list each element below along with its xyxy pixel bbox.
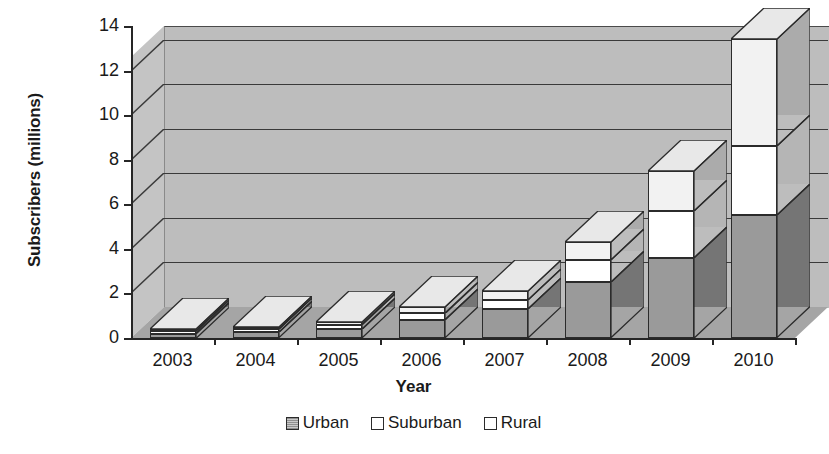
x-axis-tick-label: 2006 [377, 350, 467, 370]
bar-segment[interactable] [233, 329, 279, 332]
legend-item[interactable]: Suburban [371, 413, 462, 433]
y-axis-line [131, 26, 133, 339]
bar-segment[interactable] [648, 258, 694, 338]
bar-top-face-outline [648, 140, 727, 173]
x-axis-tick [629, 338, 631, 345]
x-axis-tick-label: 2009 [626, 350, 716, 370]
legend-label: Urban [303, 413, 349, 433]
x-axis-tick-label: 2005 [294, 350, 384, 370]
chart-legend: UrbanSuburbanRural [0, 413, 827, 433]
gridline [164, 129, 828, 130]
x-axis-tick [380, 338, 382, 345]
y-axis-tick [124, 26, 131, 28]
gridline [164, 173, 828, 174]
bar-segment[interactable] [316, 329, 362, 338]
bar-top-face-outline [731, 8, 810, 41]
legend-item[interactable]: Rural [484, 413, 542, 433]
bar-segment[interactable] [648, 211, 694, 258]
y-axis-tick-label: 8 [19, 150, 119, 168]
bar-segment[interactable] [731, 215, 777, 338]
y-axis-tick-label: 10 [19, 105, 119, 123]
y-axis-tick-label: 0 [19, 328, 119, 346]
bar-segment[interactable] [731, 39, 777, 146]
y-axis-tick [124, 204, 131, 206]
x-axis-tick [795, 338, 797, 345]
bar-segment[interactable] [648, 171, 694, 211]
bar-top-face-outline [399, 276, 478, 309]
bar-segment[interactable] [565, 282, 611, 338]
legend-item[interactable]: Urban [286, 413, 349, 433]
bar-segment[interactable] [316, 325, 362, 329]
bar-segment[interactable] [233, 332, 279, 338]
y-axis-tick [124, 71, 131, 73]
plot-left-wall [131, 26, 164, 338]
bar-top-face-outline [233, 296, 312, 329]
x-axis-tick-label: 2010 [709, 350, 799, 370]
bar-segment[interactable] [565, 260, 611, 282]
x-axis-tick [463, 338, 465, 345]
bar-top-face-outline [316, 291, 395, 324]
y-axis-tick [124, 160, 131, 162]
y-axis-tick-label: 4 [19, 239, 119, 257]
bar-segment[interactable] [731, 146, 777, 215]
bar-segment[interactable] [399, 320, 445, 338]
y-axis-tick [124, 115, 131, 117]
bar-top-face-outline [565, 211, 644, 244]
bar-segment[interactable] [150, 331, 196, 333]
gridline [164, 40, 828, 41]
y-axis-tick-label: 12 [19, 61, 119, 79]
bar-segment[interactable] [565, 242, 611, 260]
bar-top-face-outline [150, 298, 229, 331]
bar-segment[interactable] [482, 309, 528, 338]
legend-swatch-urban [286, 417, 299, 430]
gridline [164, 218, 828, 219]
y-axis-tick-label: 6 [19, 194, 119, 212]
x-axis-title: Year [0, 377, 827, 397]
legend-label: Suburban [388, 413, 462, 433]
bar-top-face-outline [482, 260, 561, 293]
gridline [164, 84, 828, 85]
y-axis-tick [124, 293, 131, 295]
y-axis-tick [124, 249, 131, 251]
x-axis-tick [297, 338, 299, 345]
y-axis-tick-label: 2 [19, 283, 119, 301]
x-axis-tick [214, 338, 216, 345]
legend-label: Rural [501, 413, 542, 433]
y-axis-tick-label: 14 [19, 16, 119, 34]
x-axis-tick-label: 2008 [543, 350, 633, 370]
bar-segment[interactable] [399, 313, 445, 320]
x-axis-tick [712, 338, 714, 345]
x-axis-tick-label: 2003 [128, 350, 218, 370]
x-axis-tick-label: 2004 [211, 350, 301, 370]
y-axis-tick [124, 338, 131, 340]
x-axis-tick-label: 2007 [460, 350, 550, 370]
legend-swatch-suburban [371, 417, 384, 430]
bar-segment[interactable] [482, 300, 528, 309]
bar-segment[interactable] [150, 334, 196, 338]
legend-swatch-rural [484, 417, 497, 430]
x-axis-tick [546, 338, 548, 345]
